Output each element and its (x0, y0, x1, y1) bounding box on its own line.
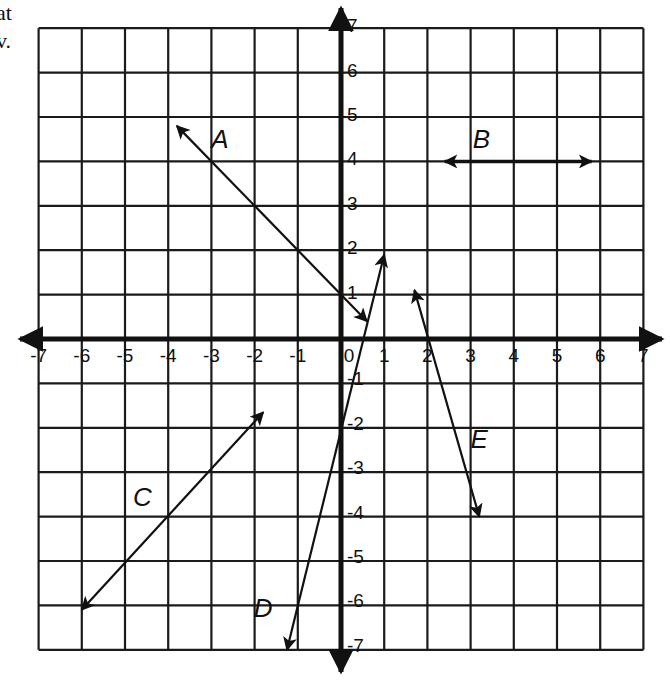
x-tick-label: 1 (379, 345, 390, 366)
x-tick-label: -6 (73, 345, 90, 366)
line-label: B (473, 124, 490, 154)
x-tick-label: -7 (30, 345, 47, 366)
y-tick-label: -7 (347, 635, 364, 656)
x-tick-label: -3 (203, 345, 220, 366)
line-a: A (177, 124, 367, 321)
x-tick-label: 4 (509, 345, 520, 366)
y-tick-label: 5 (347, 104, 358, 125)
y-tick-label: 1 (347, 282, 358, 303)
line-label: A (209, 124, 228, 154)
coordinate-plane-figure: at v. -7-6-5-4-3-2-101234567-7-6-5-4-3-2… (0, 0, 670, 682)
line-e: E (414, 290, 488, 516)
y-tick-label: 4 (347, 148, 358, 169)
x-tick-label: -1 (289, 345, 306, 366)
x-tick-label: 0 (344, 345, 355, 366)
x-tick-label: -4 (160, 345, 177, 366)
y-tick-label: -5 (347, 546, 364, 567)
x-tick-label: 3 (465, 345, 476, 366)
line-b: B (445, 124, 592, 161)
line-segment (287, 255, 384, 650)
y-tick-label: -4 (347, 502, 364, 523)
line-label: E (471, 424, 489, 454)
x-tick-label: 7 (638, 345, 649, 366)
y-tick-label: 2 (347, 237, 358, 258)
x-tick-label: 5 (552, 345, 563, 366)
plotted-lines: ABCDE (82, 124, 592, 650)
y-tick-label: -3 (347, 457, 364, 478)
line-label: C (133, 482, 152, 512)
y-tick-label: 3 (347, 193, 358, 214)
line-segment (82, 412, 263, 610)
x-tick-label: -5 (117, 345, 134, 366)
coordinate-grid: -7-6-5-4-3-2-101234567-7-6-5-4-3-2-11234… (0, 0, 670, 682)
line-label: D (254, 593, 273, 623)
y-tick-label: -2 (347, 413, 364, 434)
y-tick-label: -6 (347, 590, 364, 611)
line-c: C (82, 412, 263, 610)
y-tick-label: 6 (347, 60, 358, 81)
line-d: D (254, 255, 384, 650)
x-tick-label: -2 (246, 345, 263, 366)
line-segment (177, 126, 367, 321)
x-tick-label: 6 (595, 345, 606, 366)
y-tick-label: 7 (347, 15, 358, 36)
